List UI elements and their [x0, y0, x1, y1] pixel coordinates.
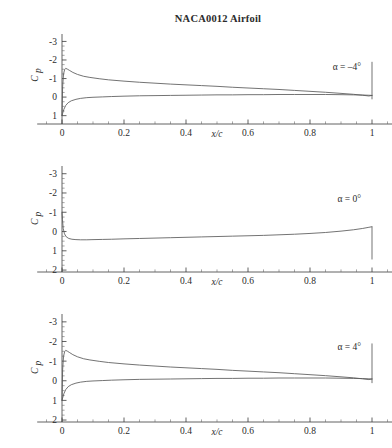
y-axis-label: Cp [30, 68, 43, 82]
y-tick-label: 2 [52, 415, 57, 425]
figure-title: NACA0012 Airfoil [175, 13, 261, 24]
x-tick-label: 0.8 [304, 426, 316, 436]
svg-text:C: C [30, 367, 40, 374]
curve-upper-and-lower-surface-coincident- [62, 212, 372, 240]
x-tick-label: 0.4 [180, 426, 192, 436]
x-tick-label: 0 [60, 128, 65, 138]
svg-text:C: C [30, 218, 40, 225]
curve-upper-surface [62, 350, 372, 400]
y-tick-label: -3 [49, 169, 57, 179]
y-tick-label: -1 [49, 208, 57, 218]
panel-alpha-4-plot: 00.20.40.60.81x/c-3-2-1012Cpα = 4° [0, 298, 392, 448]
y-tick-label: 0 [52, 227, 57, 237]
x-tick-label: 0 [60, 426, 65, 436]
panel-alpha-0-annotation: α = 0° [338, 194, 362, 204]
y-tick-label: -2 [49, 337, 57, 347]
curve-lower-surface [62, 378, 372, 400]
y-axis-label: Cp [30, 360, 43, 374]
y-tick-label: 1 [52, 246, 57, 256]
x-axis-label: x/c [210, 277, 223, 287]
x-tick-label: 0.4 [180, 128, 192, 138]
panel-alpha-0-plot: 00.20.40.60.81x/c-3-2-1012Cpα = 0° [0, 150, 392, 298]
y-tick-label: -1 [49, 357, 57, 367]
x-tick-label: 0.6 [242, 128, 254, 138]
curve-upper-surface [62, 68, 372, 115]
y-tick-label: -2 [49, 188, 57, 198]
y-tick-label: 2 [52, 265, 57, 275]
x-tick-label: 0.6 [242, 426, 254, 436]
x-tick-label: 1 [370, 426, 375, 436]
panel-alpha-4-annotation: α = 4° [338, 342, 362, 352]
y-tick-label: -3 [49, 317, 57, 327]
y-tick-label: -2 [49, 55, 57, 65]
panel-alpha-4: 00.20.40.60.81x/c-3-2-1012Cpα = 4° [0, 298, 392, 448]
y-tick-label: -3 [49, 37, 57, 47]
panel-alpha-neg4-annotation: α = –4° [333, 62, 362, 72]
y-tick-label: -1 [49, 74, 57, 84]
y-tick-label: 1 [52, 111, 57, 121]
figure-container: NACA0012 Airfoil00.20.40.60.81x/c-3-2-10… [0, 0, 392, 448]
x-tick-label: 0 [60, 276, 65, 286]
x-tick-label: 0.8 [304, 128, 316, 138]
x-tick-label: 1 [370, 276, 375, 286]
svg-text:p: p [33, 68, 43, 74]
svg-text:C: C [30, 75, 40, 82]
x-axis-label: x/c [210, 427, 223, 437]
y-axis-label: Cp [30, 211, 43, 225]
x-tick-label: 1 [370, 128, 375, 138]
x-tick-label: 0.2 [118, 426, 130, 436]
panel-alpha-0: 00.20.40.60.81x/c-3-2-1012Cpα = 0° [0, 150, 392, 298]
svg-text:p: p [33, 360, 43, 366]
panel-alpha-neg4: NACA0012 Airfoil00.20.40.60.81x/c-3-2-10… [0, 0, 392, 150]
y-tick-label: 0 [52, 92, 57, 102]
x-tick-label: 0.2 [118, 128, 130, 138]
x-tick-label: 0.4 [180, 276, 192, 286]
y-tick-label: 1 [52, 396, 57, 406]
svg-text:p: p [33, 211, 43, 217]
x-tick-label: 0.8 [304, 276, 316, 286]
x-axis-label: x/c [210, 129, 223, 139]
x-tick-label: 0.6 [242, 276, 254, 286]
y-tick-label: 0 [52, 376, 57, 386]
x-tick-label: 0.2 [118, 276, 130, 286]
curve-lower-surface [62, 94, 372, 115]
panel-alpha-neg4-plot: NACA0012 Airfoil00.20.40.60.81x/c-3-2-10… [0, 0, 392, 150]
